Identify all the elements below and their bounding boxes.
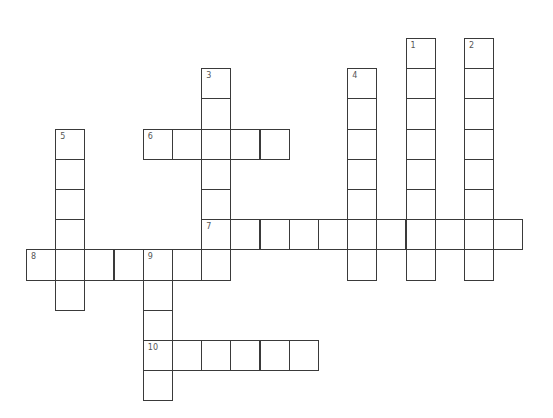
crossword-cell[interactable]: 5 — [55, 129, 85, 160]
clue-number: 10 — [148, 343, 158, 352]
crossword-cell[interactable] — [201, 249, 231, 280]
crossword-cell[interactable] — [347, 189, 377, 220]
clue-number: 7 — [206, 222, 211, 231]
clue-number: 1 — [411, 41, 416, 50]
crossword-cell[interactable] — [347, 129, 377, 160]
crossword-cell[interactable] — [201, 340, 231, 371]
crossword-cell[interactable] — [289, 340, 319, 371]
crossword-cell[interactable] — [172, 129, 202, 160]
crossword-cell[interactable]: 8 — [26, 249, 56, 280]
crossword-cell[interactable] — [260, 219, 290, 250]
crossword-cell[interactable] — [260, 129, 290, 160]
crossword-cell[interactable] — [464, 68, 494, 99]
crossword-cell[interactable] — [230, 129, 260, 160]
crossword-cell[interactable]: 7 — [201, 219, 231, 250]
crossword-cell[interactable] — [464, 129, 494, 160]
crossword-cell[interactable] — [376, 219, 406, 250]
crossword-cell[interactable] — [143, 370, 173, 401]
crossword-cell[interactable]: 6 — [143, 129, 173, 160]
crossword-cell[interactable] — [406, 249, 436, 280]
crossword-cell[interactable] — [172, 249, 202, 280]
crossword-cell[interactable] — [406, 129, 436, 160]
crossword-cell[interactable] — [260, 340, 290, 371]
crossword-cell[interactable]: 1 — [406, 38, 436, 69]
crossword-cell[interactable] — [464, 189, 494, 220]
crossword-cell[interactable] — [493, 219, 523, 250]
crossword-cell[interactable]: 3 — [201, 68, 231, 99]
clue-number: 5 — [60, 132, 65, 141]
crossword-cell[interactable] — [55, 159, 85, 190]
crossword-cell[interactable] — [406, 98, 436, 129]
clue-number: 6 — [148, 132, 153, 141]
crossword-cell[interactable] — [464, 98, 494, 129]
crossword-cell[interactable] — [318, 219, 348, 250]
crossword-grid: 12374568910 — [0, 0, 553, 418]
clue-number: 9 — [148, 252, 153, 261]
crossword-cell[interactable] — [230, 340, 260, 371]
crossword-cell[interactable] — [406, 189, 436, 220]
crossword-cell[interactable] — [406, 219, 436, 250]
crossword-cell[interactable] — [201, 129, 231, 160]
crossword-cell[interactable] — [464, 219, 494, 250]
clue-number: 3 — [206, 71, 211, 80]
crossword-cell[interactable] — [347, 159, 377, 190]
crossword-cell[interactable] — [230, 219, 260, 250]
crossword-cell[interactable]: 10 — [143, 340, 173, 371]
crossword-cell[interactable] — [143, 310, 173, 341]
crossword-cell[interactable] — [114, 249, 144, 280]
crossword-cell[interactable] — [55, 219, 85, 250]
clue-number: 4 — [352, 71, 357, 80]
crossword-cell[interactable] — [143, 280, 173, 311]
clue-number: 8 — [31, 252, 36, 261]
crossword-cell[interactable] — [347, 98, 377, 129]
crossword-cell[interactable] — [406, 68, 436, 99]
crossword-cell[interactable] — [464, 249, 494, 280]
crossword-cell[interactable] — [201, 189, 231, 220]
crossword-cell[interactable] — [347, 219, 377, 250]
crossword-cell[interactable] — [435, 219, 465, 250]
crossword-cell[interactable]: 4 — [347, 68, 377, 99]
clue-number: 2 — [469, 41, 474, 50]
crossword-cell[interactable]: 9 — [143, 249, 173, 280]
crossword-cell[interactable] — [347, 249, 377, 280]
crossword-cell[interactable] — [55, 189, 85, 220]
crossword-cell[interactable] — [201, 159, 231, 190]
crossword-cell[interactable] — [406, 159, 436, 190]
crossword-cell[interactable] — [55, 249, 85, 280]
crossword-cell[interactable] — [55, 280, 85, 311]
crossword-cell[interactable]: 2 — [464, 38, 494, 69]
crossword-cell[interactable] — [172, 340, 202, 371]
crossword-cell[interactable] — [201, 98, 231, 129]
crossword-cell[interactable] — [464, 159, 494, 190]
crossword-cell[interactable] — [84, 249, 114, 280]
crossword-cell[interactable] — [289, 219, 319, 250]
